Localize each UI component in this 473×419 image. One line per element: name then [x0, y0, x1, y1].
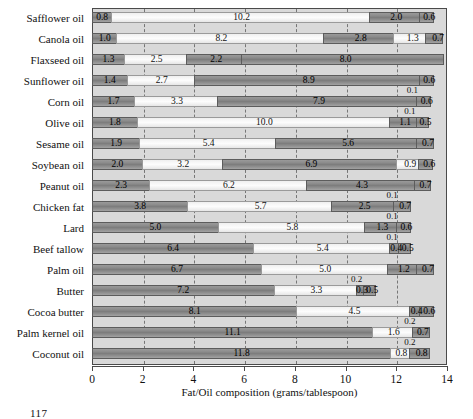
stacked-bar[interactable]: [92, 348, 430, 359]
category-label: Sunflower oil: [0, 75, 84, 88]
stacked-bar[interactable]: [92, 159, 433, 170]
stacked-bar[interactable]: [92, 96, 431, 107]
stacked-bar[interactable]: [92, 75, 434, 86]
bar-segment[interactable]: [274, 285, 358, 296]
bar-segment[interactable]: [393, 201, 411, 212]
bar-segment[interactable]: [275, 138, 417, 149]
bar-segment[interactable]: [218, 222, 365, 233]
bar-segment[interactable]: [412, 327, 430, 338]
bar-segment[interactable]: [253, 243, 390, 254]
stacked-bar[interactable]: [92, 327, 430, 338]
bar-segment[interactable]: [416, 264, 434, 275]
bar-segment[interactable]: [92, 96, 135, 107]
bar-segment[interactable]: [398, 243, 411, 254]
x-tick-label: 4: [191, 373, 197, 386]
bar-segment[interactable]: [92, 117, 138, 128]
bar-segment[interactable]: [372, 327, 413, 338]
stacked-bar[interactable]: [92, 33, 443, 44]
bar-row: 1.32.52.28.0: [92, 50, 447, 70]
category-label: Coconut oil: [0, 348, 84, 361]
bar-segment[interactable]: [425, 33, 443, 44]
bar-segment[interactable]: [92, 306, 297, 317]
bar-segment[interactable]: [92, 180, 150, 191]
bar-segment[interactable]: [92, 348, 391, 359]
bar-row: 1.810.01.10.50.1: [92, 113, 447, 133]
category-label: Olive oil: [0, 117, 84, 130]
bar-row: 2.36.24.30.7: [92, 176, 447, 196]
x-tick-label: 12: [391, 373, 403, 386]
bar-segment[interactable]: [222, 159, 397, 170]
bar-row: 6.75.01.20.7: [92, 260, 447, 280]
bar-segment[interactable]: [387, 264, 417, 275]
bar-segment[interactable]: [416, 138, 434, 149]
bar-segment[interactable]: [187, 201, 332, 212]
bar-segment[interactable]: [390, 348, 410, 359]
stacked-bar[interactable]: [92, 54, 444, 65]
bar-segment[interactable]: [111, 12, 370, 23]
bar-segment[interactable]: [396, 159, 419, 170]
bar-segment[interactable]: [363, 285, 376, 296]
bar-segment[interactable]: [389, 117, 417, 128]
bar-row: 2.03.26.90.90.6: [92, 155, 447, 175]
bar-segment[interactable]: [306, 180, 415, 191]
bar-segment[interactable]: [92, 138, 140, 149]
bar-segment[interactable]: [124, 54, 187, 65]
bar-segment[interactable]: [92, 243, 254, 254]
bar-segment[interactable]: [217, 96, 417, 107]
bar-segment[interactable]: [92, 327, 373, 338]
bar-segment[interactable]: [92, 222, 219, 233]
bar-segment[interactable]: [393, 33, 426, 44]
category-label: Cocoa butter: [0, 306, 84, 319]
bar-segment[interactable]: [331, 201, 394, 212]
bar-segment[interactable]: [364, 222, 397, 233]
stacked-bar[interactable]: [92, 138, 434, 149]
bar-segment[interactable]: [323, 33, 394, 44]
bar-segment[interactable]: [116, 33, 324, 44]
bar-segment[interactable]: [416, 96, 431, 107]
stacked-bar[interactable]: [92, 117, 429, 128]
category-label: Peanut oil: [0, 180, 84, 193]
bar-segment[interactable]: [92, 201, 188, 212]
stacked-bar[interactable]: [92, 12, 434, 23]
x-tick-label: 6: [241, 373, 247, 386]
bar-segment[interactable]: [137, 117, 391, 128]
bar-segment[interactable]: [369, 12, 420, 23]
category-label: Soybean oil: [0, 159, 84, 172]
bar-segment[interactable]: [92, 54, 125, 65]
page-number: 117: [30, 407, 48, 419]
bar-segment[interactable]: [92, 12, 112, 23]
stacked-bar[interactable]: [92, 264, 434, 275]
stacked-bar[interactable]: [92, 306, 434, 317]
bar-segment[interactable]: [134, 96, 218, 107]
bar-segment[interactable]: [416, 117, 429, 128]
bar-segment[interactable]: [186, 54, 242, 65]
bar-segment[interactable]: [241, 54, 444, 65]
bar-segment[interactable]: [414, 180, 432, 191]
bar-segment[interactable]: [418, 159, 433, 170]
bar-segment[interactable]: [92, 75, 128, 86]
bar-segment[interactable]: [92, 33, 117, 44]
bar-segment[interactable]: [396, 222, 411, 233]
bar-segment[interactable]: [296, 306, 410, 317]
bar-segment[interactable]: [419, 306, 434, 317]
bar-segment[interactable]: [142, 159, 223, 170]
bar-segment[interactable]: [139, 138, 276, 149]
bar-segment[interactable]: [419, 12, 434, 23]
bar-segment[interactable]: [419, 75, 434, 86]
x-tick-label: 8: [292, 373, 298, 386]
bar-segment[interactable]: [92, 285, 275, 296]
bar-segment[interactable]: [409, 348, 429, 359]
bar-segment[interactable]: [149, 180, 306, 191]
stacked-bar[interactable]: [92, 243, 411, 254]
stacked-bar[interactable]: [92, 201, 411, 212]
stacked-bar[interactable]: [92, 180, 431, 191]
bar-segment[interactable]: [92, 264, 262, 275]
bar-segment[interactable]: [194, 75, 420, 86]
x-tick: [396, 366, 397, 371]
stacked-bar[interactable]: [92, 222, 411, 233]
bar-segment[interactable]: [92, 159, 143, 170]
bar-segment[interactable]: [127, 75, 195, 86]
stacked-bar[interactable]: [92, 285, 376, 296]
bar-segment[interactable]: [261, 264, 388, 275]
